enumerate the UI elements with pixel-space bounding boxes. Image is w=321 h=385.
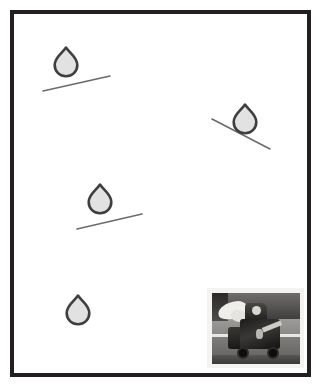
poster-canvas — [0, 0, 321, 385]
photo-inset — [207, 288, 304, 368]
photo-ground — [212, 355, 300, 364]
photo-highlight-lower — [256, 329, 263, 339]
photo-cart-wheel-right — [267, 347, 279, 359]
photo-cart-wheel-left — [237, 347, 249, 359]
photo-highlight-upper — [252, 306, 261, 315]
photo-image — [212, 293, 300, 364]
